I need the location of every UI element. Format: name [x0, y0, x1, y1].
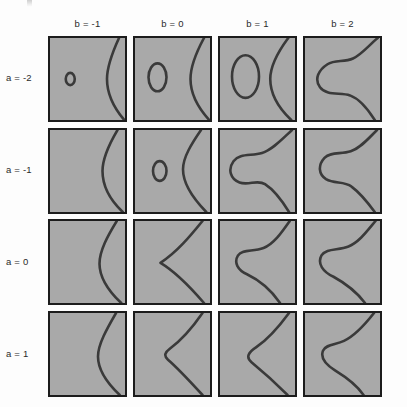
oval-component: [232, 55, 259, 98]
right-branch-component: [100, 221, 122, 303]
right-branch-component: [103, 130, 123, 212]
curve-plot: [305, 130, 380, 212]
panel-a-minus2-b-2: [303, 36, 382, 122]
column-header-b-2: b = 2: [303, 18, 382, 29]
curve-plot: [50, 130, 125, 212]
curve-plot: [220, 221, 295, 303]
right-branch-component: [191, 38, 210, 120]
row-header-a-1: a = 1: [6, 348, 46, 359]
row-header-a-minus-1: a = -1: [6, 164, 46, 175]
panel-a-1-b-1: [218, 311, 297, 397]
curve-plot: [135, 38, 210, 120]
s-curve-component: [322, 313, 374, 395]
curve-plot: [135, 130, 210, 212]
curve-plot: [135, 221, 210, 303]
panel-a-minus1-b-1: [218, 128, 297, 214]
curve-plot: [50, 313, 125, 395]
panel-a-0-b-1: [218, 219, 297, 305]
panel-a-minus1-b-minus1: [48, 128, 127, 214]
right-branch-component: [270, 38, 291, 120]
panel-a-minus2-b-minus1: [48, 36, 127, 122]
curve-plot: [305, 313, 380, 395]
node-curve-component: [248, 313, 289, 395]
merged-s-curve-component: [317, 38, 377, 120]
panel-a-0-b-minus1: [48, 219, 127, 305]
row-header-a-0: a = 0: [6, 256, 46, 267]
merged-s-curve-component: [320, 130, 377, 212]
print-artifact: [27, 0, 32, 7]
panel-a-minus2-b-1: [218, 36, 297, 122]
oval-component: [149, 63, 167, 91]
right-branch-component: [183, 130, 206, 212]
curve-plot: [220, 130, 295, 212]
column-header-b-0: b = 0: [133, 18, 212, 29]
curve-plot: [305, 221, 380, 303]
right-branch-component: [98, 313, 120, 395]
row-header-a-minus-2: a = -2: [6, 72, 46, 83]
elliptic-curve-grid-figure: b = -1 b = 0 b = 1 b = 2 a = -2 a = -1 a…: [0, 0, 407, 407]
s-curve-component: [320, 221, 376, 303]
panel-a-minus1-b-2: [303, 128, 382, 214]
oval-component: [66, 73, 75, 85]
oval-component: [153, 161, 167, 181]
curve-plot: [50, 38, 125, 120]
cusp-curve-component: [161, 221, 205, 303]
curve-plot: [135, 313, 210, 395]
right-branch-component: [107, 38, 124, 120]
panel-a-1-b-2: [303, 311, 382, 397]
merged-bulb-curve-component: [230, 130, 292, 212]
curve-plot: [220, 38, 295, 120]
curve-plot: [50, 221, 125, 303]
panel-a-0-b-2: [303, 219, 382, 305]
panel-a-1-b-0: [133, 311, 212, 397]
node-curve-component: [165, 313, 202, 395]
panel-a-minus1-b-0: [133, 128, 212, 214]
curve-plot: [305, 38, 380, 120]
panel-a-0-b-0: [133, 219, 212, 305]
panel-a-minus2-b-0: [133, 36, 212, 122]
column-header-b-minus-1: b = -1: [48, 18, 127, 29]
panel-a-1-b-minus1: [48, 311, 127, 397]
column-header-b-1: b = 1: [218, 18, 297, 29]
curve-plot: [220, 313, 295, 395]
s-curve-component: [236, 221, 290, 303]
